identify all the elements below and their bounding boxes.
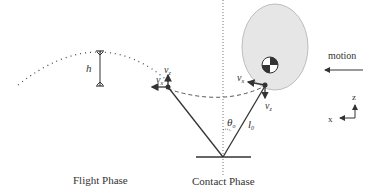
leg-length-label: l0 <box>248 118 254 131</box>
vz-flight-label: vz <box>164 64 171 76</box>
vx-contact-label: vx <box>237 72 244 84</box>
body-ellipse <box>242 4 308 90</box>
vz-contact-label: vz <box>265 100 272 112</box>
height-label: h <box>86 62 92 74</box>
axis-x-label: x <box>328 114 333 124</box>
vx-flight-label: vx <box>156 74 163 86</box>
motion-label: motion <box>328 50 356 61</box>
contact-phase-caption: Contact Phase <box>192 175 255 187</box>
theta-arc <box>223 129 231 131</box>
height-marker <box>96 51 104 86</box>
theta-label: θo <box>227 116 235 129</box>
flight-trajectory <box>18 52 170 85</box>
contact-trajectory <box>168 86 265 97</box>
flight-phase-caption: Flight Phase <box>73 174 128 186</box>
axes-icon <box>340 105 355 118</box>
center-of-mass-icon <box>262 57 278 73</box>
axis-z-label: z <box>352 92 356 102</box>
spring-mass-diagram: h vz vx vx vz θo l0 motion z x <box>0 0 375 194</box>
leg-left <box>168 87 223 157</box>
